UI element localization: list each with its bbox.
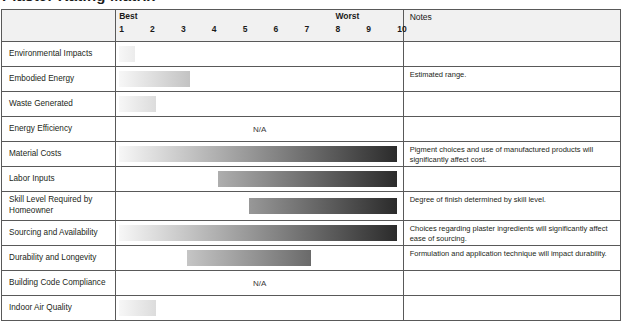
table-row: Sourcing and AvailabilityChoices regardi… (2, 221, 621, 246)
criteria-label: Labor Inputs (2, 167, 116, 192)
rating-bar (119, 71, 190, 87)
criteria-label: Waste Generated (2, 92, 116, 117)
scale-tick-10: 10 (397, 24, 413, 34)
table-row: Skill Level Required by HomeownerDegree … (2, 192, 621, 221)
scale-tick-9: 9 (366, 24, 382, 34)
criteria-label: Embodied Energy (2, 67, 116, 92)
page-title-strip: Plaster Rating Matrix (0, 0, 623, 9)
rating-scale-cell (116, 142, 403, 167)
rating-bar (249, 198, 397, 214)
scale-tick-2: 2 (150, 24, 166, 34)
criteria-label: Sourcing and Availability (2, 221, 116, 246)
rating-scale-cell (116, 192, 403, 221)
rating-scale-cell (116, 246, 403, 271)
criteria-label: Building Code Compliance (2, 271, 116, 296)
criteria-header-cell (2, 10, 116, 42)
scale-header-cell: BestWorst12345678910 (116, 10, 403, 42)
scale-tick-5: 5 (243, 24, 259, 34)
rating-matrix-body: Environmental ImpactsEmbodied EnergyEsti… (2, 42, 621, 321)
rating-bar (119, 300, 156, 316)
scale-tick-3: 3 (181, 24, 197, 34)
scale-best-label: Best (119, 11, 137, 21)
rating-scale-cell (116, 167, 403, 192)
criteria-label: Durability and Longevity (2, 246, 116, 271)
notes-header: Notes (403, 10, 620, 42)
not-applicable-label: N/A (240, 279, 280, 288)
scale-tick-6: 6 (274, 24, 290, 34)
note-cell: Choices regarding plaster ingredients wi… (403, 221, 620, 246)
rating-bar (119, 96, 156, 112)
note-cell (403, 117, 620, 142)
scale-tick-4: 4 (212, 24, 228, 34)
rating-scale-cell (116, 42, 403, 67)
note-cell (403, 271, 620, 296)
scale-tick-1: 1 (119, 24, 135, 34)
scale-worst-label: Worst (335, 11, 359, 21)
note-cell: Estimated range. (403, 67, 620, 92)
note-cell (403, 296, 620, 321)
criteria-label: Skill Level Required by Homeowner (2, 192, 116, 221)
scale-tick-8: 8 (335, 24, 351, 34)
scale-tick-7: 7 (305, 24, 321, 34)
table-row: Embodied EnergyEstimated range. (2, 67, 621, 92)
criteria-label: Indoor Air Quality (2, 296, 116, 321)
table-row: Building Code ComplianceN/A (2, 271, 621, 296)
rating-scale-cell (116, 67, 403, 92)
note-cell (403, 92, 620, 117)
table-header-row: BestWorst12345678910 Notes (2, 10, 621, 42)
table-row: Material CostsPigment choices and use of… (2, 142, 621, 167)
rating-scale-cell (116, 92, 403, 117)
criteria-label: Environmental Impacts (2, 42, 116, 67)
rating-matrix-table: BestWorst12345678910 Notes Environmental… (1, 9, 621, 321)
table-row: Waste Generated (2, 92, 621, 117)
table-row: Indoor Air Quality (2, 296, 621, 321)
rating-scale-cell: N/A (116, 117, 403, 142)
rating-bar (119, 146, 397, 162)
note-cell: Pigment choices and use of manufactured … (403, 142, 620, 167)
note-cell: Formulation and application technique wi… (403, 246, 620, 271)
rating-scale-cell: N/A (116, 271, 403, 296)
table-row: Energy EfficiencyN/A (2, 117, 621, 142)
page-title: Plaster Rating Matrix (2, 0, 155, 4)
rating-scale-cell (116, 296, 403, 321)
table-row: Labor Inputs (2, 167, 621, 192)
note-cell (403, 167, 620, 192)
not-applicable-label: N/A (240, 125, 280, 134)
rating-bar (218, 171, 397, 187)
rating-scale-cell (116, 221, 403, 246)
rating-bar (119, 46, 134, 62)
table-row: Environmental Impacts (2, 42, 621, 67)
note-cell: Degree of finish determined by skill lev… (403, 192, 620, 221)
rating-bar (119, 225, 397, 241)
rating-bar (187, 250, 311, 266)
criteria-label: Material Costs (2, 142, 116, 167)
criteria-label: Energy Efficiency (2, 117, 116, 142)
note-cell (403, 42, 620, 67)
table-row: Durability and LongevityFormulation and … (2, 246, 621, 271)
